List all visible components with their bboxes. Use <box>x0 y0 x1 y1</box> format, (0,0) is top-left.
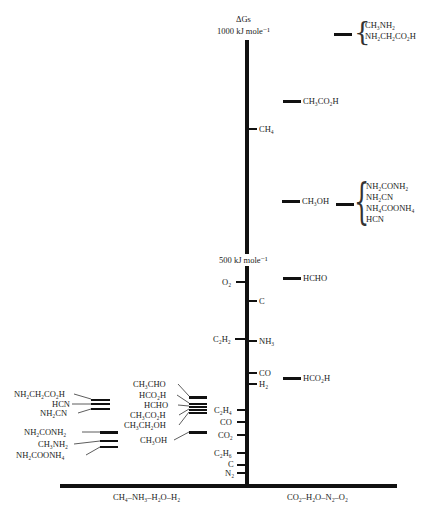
leader-lines <box>0 0 436 509</box>
